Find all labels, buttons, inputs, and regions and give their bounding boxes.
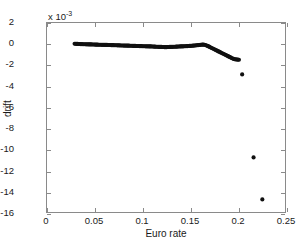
y-tick-mark <box>281 87 285 88</box>
x-tick-mark <box>143 208 144 212</box>
y-tick-mark <box>281 108 285 109</box>
y-tick-label: -8 <box>6 123 14 133</box>
y-tick-mark <box>47 129 51 130</box>
x-tick-label: 0.25 <box>277 216 296 226</box>
x-tick-mark <box>95 208 96 212</box>
y-tick-mark <box>281 44 285 45</box>
y-tick-mark <box>281 193 285 194</box>
y-axis-multiplier-base: x 10 <box>48 11 66 22</box>
y-tick-label: -14 <box>0 187 14 197</box>
x-tick-mark <box>47 23 48 27</box>
y-tick-mark <box>281 129 285 130</box>
x-tick-label: 0.1 <box>135 216 148 226</box>
y-tick-mark <box>281 65 285 66</box>
data-canvas <box>47 23 285 212</box>
x-tick-label: 0.2 <box>231 216 244 226</box>
x-tick-label: 0 <box>43 216 48 226</box>
y-tick-label: -6 <box>6 102 14 112</box>
x-tick-mark <box>191 23 192 27</box>
y-tick-label: 0 <box>9 38 14 48</box>
x-tick-mark <box>239 23 240 27</box>
data-point <box>260 197 264 201</box>
y-tick-mark <box>281 23 285 24</box>
y-tick-label: 2 <box>9 17 14 27</box>
x-tick-mark <box>143 23 144 27</box>
series-drift-trace <box>73 42 241 62</box>
y-tick-label: -12 <box>0 166 14 176</box>
x-tick-mark <box>95 23 96 27</box>
x-axis-label: Euro rate <box>46 229 286 239</box>
chart-figure: x 10-3 drift Euro rate 20-2-4-6-8-10-12-… <box>0 0 304 247</box>
y-tick-mark <box>47 172 51 173</box>
y-axis-multiplier: x 10-3 <box>48 10 72 22</box>
x-tick-mark <box>47 208 48 212</box>
y-tick-mark <box>281 214 285 215</box>
y-tick-mark <box>47 150 51 151</box>
y-tick-mark <box>281 172 285 173</box>
data-point <box>240 72 244 76</box>
y-tick-mark <box>47 214 51 215</box>
y-tick-mark <box>47 108 51 109</box>
data-point <box>237 58 241 62</box>
y-tick-label: -4 <box>6 81 14 91</box>
y-tick-mark <box>47 193 51 194</box>
y-tick-label: -10 <box>0 145 14 155</box>
y-tick-mark <box>47 44 51 45</box>
x-tick-mark <box>287 23 288 27</box>
y-axis-multiplier-exponent: -3 <box>66 10 72 17</box>
y-tick-mark <box>47 87 51 88</box>
y-tick-mark <box>281 150 285 151</box>
x-tick-mark <box>191 208 192 212</box>
y-tick-label: -2 <box>6 60 14 70</box>
y-tick-label: -16 <box>0 208 14 218</box>
y-tick-mark <box>47 65 51 66</box>
x-tick-mark <box>287 208 288 212</box>
x-tick-mark <box>239 208 240 212</box>
x-tick-label: 0.05 <box>85 216 104 226</box>
plot-area <box>46 22 286 213</box>
data-point <box>252 155 256 159</box>
series-outliers <box>240 72 264 201</box>
x-tick-label: 0.15 <box>181 216 200 226</box>
